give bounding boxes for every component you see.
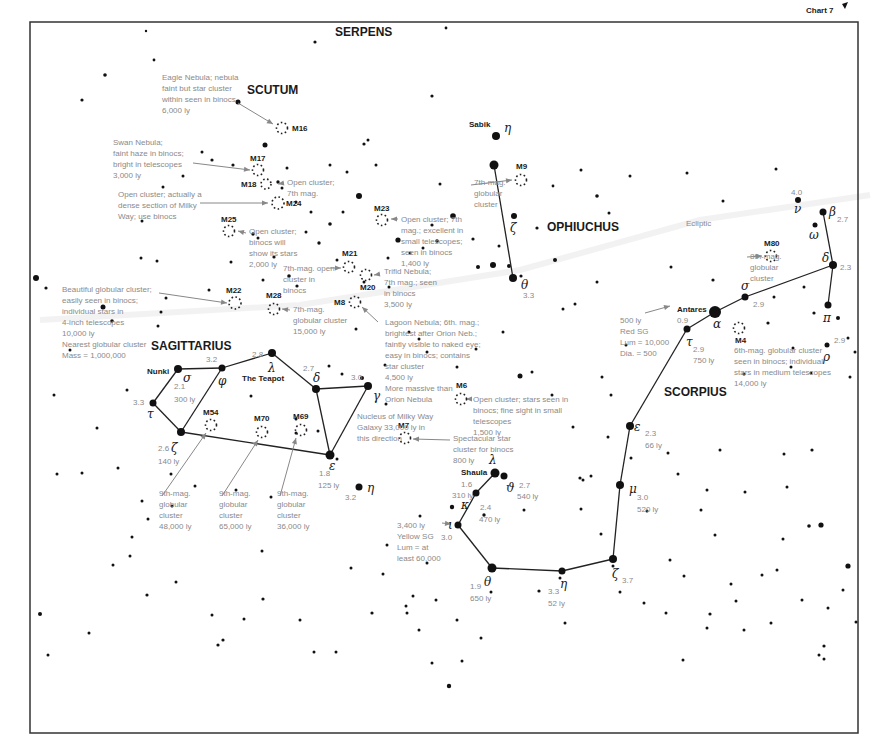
annotation-line: 14,000 ly — [734, 379, 766, 388]
field-star — [836, 316, 840, 320]
field-star — [471, 237, 474, 240]
field-star — [305, 231, 308, 234]
field-star — [250, 395, 253, 398]
annotation-line: Trifid Nebula; — [384, 267, 431, 276]
greek-letter: τ — [686, 335, 693, 349]
field-star — [370, 611, 373, 614]
star-dot — [825, 302, 832, 309]
field-star — [580, 508, 583, 511]
chart-number: Chart 7 — [806, 6, 834, 15]
field-star — [601, 376, 604, 379]
magnitude: 2.3 — [840, 263, 852, 272]
field-star — [387, 257, 390, 260]
magnitude: 3.3 — [523, 291, 535, 300]
magnitude: 0.9 — [677, 316, 689, 325]
greek-letter: θ — [521, 278, 529, 292]
annotation-line: globular — [159, 500, 188, 509]
field-star — [665, 612, 668, 615]
annotation-line: 2,000 ly — [249, 260, 277, 269]
star-dot — [820, 209, 827, 216]
field-star — [456, 619, 459, 622]
field-star — [580, 169, 583, 172]
annotation-line: 7th mag. — [287, 189, 318, 198]
field-star — [103, 73, 107, 77]
field-star — [356, 193, 362, 199]
greek-letter: σ — [741, 279, 750, 293]
star-dot — [177, 428, 185, 436]
field-star — [299, 619, 302, 622]
annotation-line: 7th mag.; seen — [384, 278, 437, 287]
field-star — [439, 183, 442, 186]
star-name: Shaula — [461, 468, 488, 477]
field-star — [313, 40, 316, 43]
field-star — [261, 550, 264, 553]
object-label: M21 — [342, 249, 358, 258]
field-star — [147, 518, 150, 521]
star-name: Nunki — [147, 367, 169, 376]
star-dot — [626, 422, 634, 430]
field-star — [553, 258, 557, 262]
field-star — [744, 491, 747, 494]
star-dot — [616, 481, 624, 489]
annotation-line: cluster for binocs — [453, 445, 513, 454]
magnitude: 3.3 — [133, 398, 145, 407]
annotation-line: binocs will — [249, 238, 286, 247]
magnitude: 3.2 — [345, 493, 357, 502]
field-star — [677, 473, 680, 476]
annotation-line: globular — [750, 263, 779, 272]
annotation-line: 9th-mag. — [277, 489, 309, 498]
star-dot — [559, 568, 566, 575]
annotation-line: Dia. = 500 — [620, 349, 657, 358]
greek-letter: ι — [448, 518, 453, 532]
star-dot — [813, 223, 818, 228]
annotation-line: 7th-mag. — [474, 178, 506, 187]
field-star — [38, 612, 42, 616]
field-star — [231, 163, 234, 166]
field-star — [595, 194, 599, 198]
field-star — [156, 260, 159, 263]
field-star — [44, 286, 47, 289]
annotation-line: globular — [219, 500, 248, 509]
star-dot — [455, 522, 462, 529]
field-star — [431, 662, 434, 665]
distance: 650 ly — [470, 594, 491, 603]
field-star — [53, 394, 56, 397]
annotation-line: 4-inch telescopes — [62, 318, 124, 327]
field-star — [270, 496, 273, 499]
greek-letter: κ — [460, 498, 469, 512]
annotation-line: 36,000 ly — [277, 522, 309, 531]
annotation-line: Lum = at — [397, 543, 429, 552]
field-star — [607, 436, 610, 439]
annotation-line: small telescopes; — [401, 237, 462, 246]
field-star — [56, 473, 59, 476]
distance: 140 ly — [158, 457, 179, 466]
field-star — [210, 158, 213, 161]
greek-letter: θ — [484, 575, 492, 589]
magnitude: 2.8 — [252, 350, 264, 359]
greek-letter: β — [828, 205, 836, 219]
annotation-line: 6,000 ly — [162, 106, 190, 115]
field-star — [714, 534, 717, 537]
field-star — [350, 567, 353, 570]
star-dot — [312, 385, 320, 393]
field-star — [211, 614, 214, 617]
field-star — [818, 654, 821, 657]
constellation-name: SERPENS — [335, 25, 392, 39]
field-star — [643, 602, 646, 605]
magnitude: 3.0 — [351, 373, 363, 382]
object-label: M80 — [764, 239, 780, 248]
annotation-line: in binocs — [384, 289, 416, 298]
star — [492, 132, 500, 140]
annotation-line: Orion Nebula — [385, 395, 433, 404]
field-star — [335, 651, 338, 654]
greek-letter: η — [367, 481, 375, 495]
field-star — [782, 538, 785, 541]
field-star — [818, 522, 823, 527]
annotation-line: within seen in binocs — [161, 95, 236, 104]
greek-letter: δ — [822, 251, 829, 265]
field-star — [230, 261, 233, 264]
annotation-line: Eagle Nebula; nebula — [162, 73, 239, 82]
asterism-name: The Teapot — [242, 374, 284, 383]
field-star — [317, 241, 320, 244]
annotation-line: 500 ly — [620, 316, 641, 325]
